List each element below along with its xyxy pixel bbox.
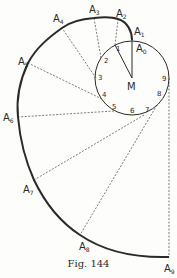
svg-text:5: 5 (112, 103, 116, 111)
figure-caption: Fig. 144 (0, 258, 177, 269)
label-a4: A4 (53, 13, 64, 25)
label-a5: A5 (18, 56, 29, 68)
svg-text:7: 7 (145, 106, 149, 114)
label-a7: A7 (23, 184, 34, 196)
svg-text:6: 6 (130, 107, 135, 115)
svg-text:8: 8 (157, 90, 161, 98)
svg-text:1: 1 (116, 45, 120, 53)
svg-text:9: 9 (162, 75, 166, 83)
involute-diagram: A0 A1 A2 A3 A4 A5 A6 A7 A8 A9 M 1 2 3 4 … (0, 0, 177, 278)
label-a0: A0 (136, 43, 147, 55)
label-a3: A3 (89, 4, 100, 16)
svg-text:4: 4 (102, 91, 107, 99)
svg-text:3: 3 (98, 74, 102, 82)
svg-text:2: 2 (104, 57, 108, 65)
label-a2: A2 (116, 8, 127, 20)
label-center-m: M (127, 81, 136, 92)
label-a6: A6 (3, 112, 14, 124)
label-a1: A1 (134, 26, 145, 38)
label-a8: A8 (79, 241, 90, 253)
